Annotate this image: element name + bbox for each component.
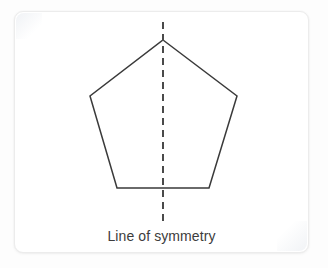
figure-card [14, 11, 309, 253]
line-of-symmetry-label: Line of symmetry [14, 227, 309, 245]
diagram-stage: Line of symmetry [0, 0, 328, 268]
